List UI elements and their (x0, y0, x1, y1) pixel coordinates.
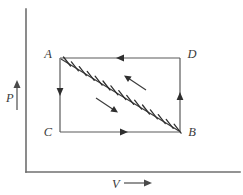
y-axis-label-arrow (14, 80, 21, 110)
diagonal-direction-arrow-lower (96, 98, 118, 113)
arrowhead-top-left-icon (116, 55, 124, 62)
vertex-label-C: C (44, 125, 53, 139)
pv-diagram-figure: A D B C P V (0, 0, 243, 195)
diagonal-line (61, 59, 179, 131)
vertex-label-A: A (43, 47, 52, 61)
diagonal-arrow-upper-shaft (128, 78, 146, 90)
p-arrow-head-icon (14, 80, 21, 88)
vertex-label-D: D (186, 47, 196, 61)
arrowhead-right-up-icon (177, 92, 184, 100)
x-axis-label-arrow (124, 180, 152, 187)
diagonal-arrow-lower-shaft (96, 98, 114, 110)
x-axis-label: V (112, 177, 121, 191)
diagram-canvas: A D B C P V (0, 0, 243, 195)
y-axis-label: P (5, 91, 14, 105)
diagonal-arrowhead-lower-icon (110, 106, 118, 113)
diagonal-path-A-to-B (61, 57, 181, 133)
vertex-label-B: B (188, 125, 196, 139)
diagonal-hatch-marks (64, 57, 182, 133)
arrowhead-left-down-icon (57, 88, 64, 96)
v-arrow-head-icon (144, 180, 152, 187)
arrowhead-bottom-right-icon (120, 129, 128, 136)
diagonal-arrowhead-upper-icon (124, 75, 132, 82)
diagonal-direction-arrow-upper (124, 75, 146, 90)
